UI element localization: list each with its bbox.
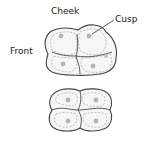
front-label: Front	[10, 47, 33, 56]
lower-molar	[49, 89, 111, 131]
cusp-dot	[59, 34, 64, 39]
cusp-dot	[66, 98, 71, 103]
cusp-dot	[94, 119, 99, 124]
cusp-dot	[94, 98, 99, 103]
upper-molar	[45, 20, 116, 75]
cusp-dot	[104, 54, 108, 58]
cheek-label: Cheek	[51, 7, 79, 16]
cusp-label: Cusp	[115, 15, 137, 24]
cusp-dot	[66, 119, 71, 124]
cusp-dot	[61, 62, 66, 67]
cusp-dot	[87, 34, 92, 39]
cusp-dot	[91, 64, 96, 69]
